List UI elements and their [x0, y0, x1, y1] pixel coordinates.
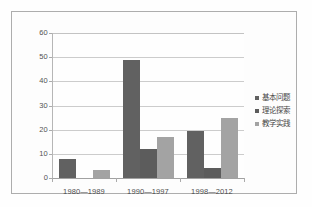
x-axis-category-label: 1990—1997 — [116, 187, 180, 196]
y-axis-tick-mark — [49, 106, 52, 107]
bar — [187, 131, 204, 178]
y-axis-tick-mark — [49, 81, 52, 82]
bar — [123, 60, 140, 178]
bar — [221, 118, 238, 178]
legend-label: 教学实践 — [262, 119, 290, 128]
plot-area — [52, 33, 244, 178]
chart-outer-frame: 0102030405060 1980—19891990—19971998—201… — [11, 11, 297, 194]
y-axis-tick-label: 30 — [26, 102, 48, 110]
gridline — [52, 33, 244, 34]
bar — [204, 168, 221, 178]
gridline — [52, 57, 244, 58]
y-axis-tick-mark — [49, 57, 52, 58]
x-axis-tick-mark — [52, 178, 53, 182]
y-axis-line — [52, 33, 53, 179]
bar-chart-figure: 0102030405060 1980—19891990—19971998—201… — [0, 0, 312, 207]
bar — [157, 137, 174, 178]
chart-legend: 基本问题理论探索教学实践 — [255, 91, 307, 130]
gridline — [52, 81, 244, 82]
y-axis-tick-mark — [49, 33, 52, 34]
y-axis-tick-label: 40 — [26, 77, 48, 85]
gridline — [52, 130, 244, 131]
bar — [59, 159, 76, 178]
y-axis-tick-label: 0 — [26, 174, 48, 182]
legend-item: 基本问题 — [255, 91, 307, 104]
bar — [93, 170, 110, 178]
x-axis-category-label: 1980—1989 — [52, 187, 116, 196]
x-axis-category-label: 1998—2012 — [180, 187, 244, 196]
legend-swatch-icon — [255, 109, 259, 113]
legend-item: 理论探索 — [255, 104, 307, 117]
y-axis-tick-mark — [49, 154, 52, 155]
y-axis-tick-label: 50 — [26, 53, 48, 61]
y-axis-tick-label: 10 — [26, 150, 48, 158]
y-axis-tick-label: 60 — [26, 29, 48, 37]
gridline — [52, 106, 244, 107]
bar — [140, 149, 157, 178]
y-axis-tick-mark — [49, 130, 52, 131]
legend-swatch-icon — [255, 122, 259, 126]
legend-swatch-icon — [255, 96, 259, 100]
y-axis-tick-label: 20 — [26, 126, 48, 134]
x-axis-line — [52, 178, 245, 179]
legend-label: 基本问题 — [262, 93, 290, 102]
y-axis-tick-labels: 0102030405060 — [22, 12, 48, 207]
x-axis-tick-mark — [180, 178, 181, 182]
x-axis-tick-mark — [116, 178, 117, 182]
legend-label: 理论探索 — [262, 106, 290, 115]
legend-item: 教学实践 — [255, 117, 307, 130]
x-axis-tick-mark — [244, 178, 245, 182]
